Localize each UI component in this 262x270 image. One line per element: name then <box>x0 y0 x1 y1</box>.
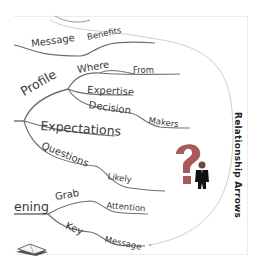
book-icon <box>14 240 50 256</box>
label-opening: ening <box>14 201 49 214</box>
question-mark-person-icon <box>170 140 220 190</box>
relationship-arrows-label: Relationship Arrows <box>233 112 243 218</box>
label-from: From <box>133 66 154 75</box>
